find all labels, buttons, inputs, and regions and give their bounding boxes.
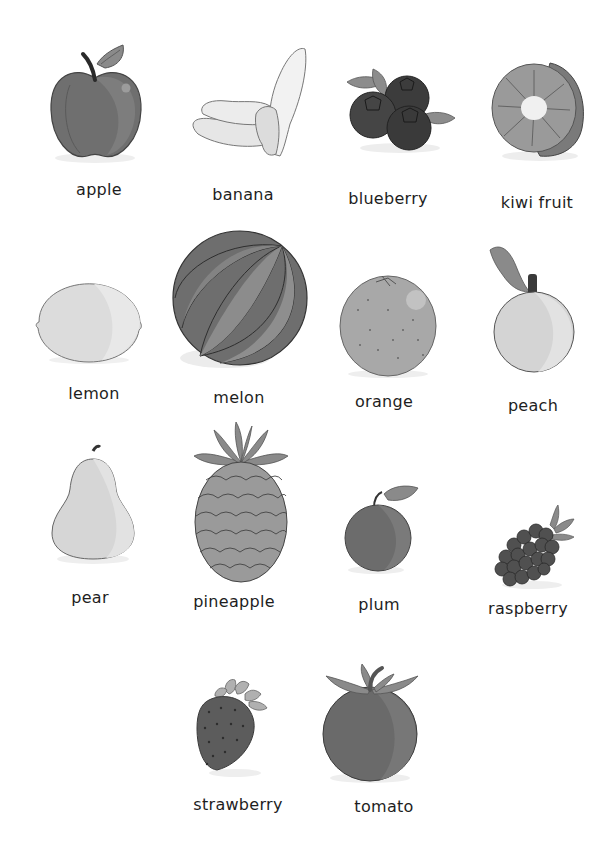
melon-icon — [170, 228, 310, 373]
fruit-label-blueberry: blueberry — [348, 189, 428, 208]
fruit-label-plum: plum — [358, 595, 400, 614]
fruit-label-tomato: tomato — [354, 797, 413, 816]
fruit-label-apple: apple — [76, 180, 122, 199]
blueberry-icon — [345, 68, 455, 153]
fruit-label-orange: orange — [355, 392, 413, 411]
peach-icon — [488, 246, 578, 376]
fruit-label-raspberry: raspberry — [488, 599, 568, 618]
fruit-label-pineapple: pineapple — [193, 592, 275, 611]
raspberry-icon — [492, 505, 577, 590]
tomato-icon — [322, 662, 434, 784]
orange-icon — [338, 270, 438, 380]
fruit-label-pear: pear — [71, 588, 109, 607]
banana-icon — [188, 44, 308, 164]
strawberry-icon — [195, 678, 277, 778]
pear-icon — [48, 445, 138, 565]
plum-icon — [344, 484, 424, 574]
kiwi-fruit-icon — [490, 58, 590, 163]
fruit-label-lemon: lemon — [68, 384, 119, 403]
lemon-icon — [34, 280, 144, 365]
fruit-label-strawberry: strawberry — [193, 795, 282, 814]
apple-icon — [45, 40, 145, 165]
fruit-label-peach: peach — [508, 396, 558, 415]
pineapple-icon — [186, 420, 296, 585]
fruit-label-banana: banana — [212, 185, 274, 204]
fruit-label-kiwi-fruit: kiwi fruit — [501, 193, 573, 212]
fruit-label-melon: melon — [213, 388, 264, 407]
